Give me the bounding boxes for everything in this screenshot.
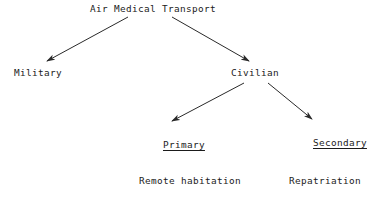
edge-civilian-to-secondary	[268, 83, 312, 119]
node-civilian: Civilian	[231, 67, 279, 79]
node-military: Military	[14, 67, 62, 79]
node-air-medical-transport: Air Medical Transport	[90, 3, 216, 15]
edge-root-to-military	[47, 17, 128, 61]
edge-civilian-to-primary	[172, 83, 244, 121]
edge-root-to-civilian	[172, 17, 249, 61]
secondary-item-list: Repatriation Inter-Hospital	[289, 152, 373, 200]
primary-item-list: Remote habitation Major Accident RTA, Sk…	[139, 152, 241, 200]
node-primary-label: Primary	[163, 139, 205, 150]
list-item: Remote habitation	[139, 175, 241, 187]
node-secondary-label: Secondary	[313, 137, 367, 148]
list-item: Repatriation	[289, 175, 373, 187]
air-medical-transport-diagram: Air Medical Transport Military Civilian …	[0, 0, 391, 200]
